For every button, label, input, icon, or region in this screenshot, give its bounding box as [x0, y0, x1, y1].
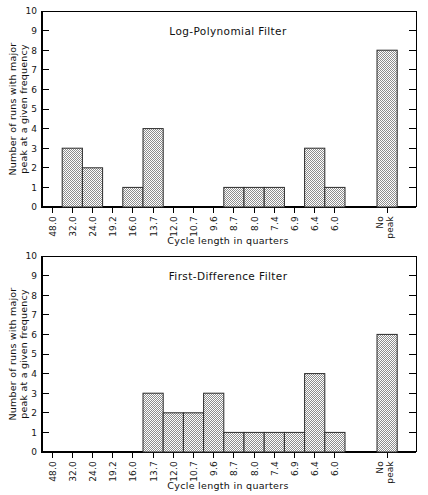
x-axis-ticks-top: [52, 207, 387, 213]
x-tick-label-bottom-14: 6.0: [330, 461, 340, 476]
y-tick-label-bottom-5: 5: [31, 349, 37, 359]
svg-text:6.4: 6.4: [310, 216, 320, 231]
y-tick-label-top-9: 9: [31, 26, 37, 36]
svg-text:12.0: 12.0: [169, 461, 179, 482]
chart-title-log-polynomial: Log-Polynomial Filter: [169, 25, 287, 37]
svg-text:48.0: 48.0: [48, 216, 58, 237]
svg-text:No: No: [375, 461, 385, 474]
bar-top-8.0: [244, 187, 264, 207]
x-axis-title-bottom: Cycle length in quarters: [167, 480, 288, 491]
y-axis-ticks-bottom: [42, 256, 416, 452]
y-axis-title-top: Number of runs with major peak at a give…: [7, 43, 29, 176]
y-tick-label-top-1: 1: [31, 183, 37, 193]
svg-text:9.6: 9.6: [209, 216, 219, 231]
svg-text:8.7: 8.7: [229, 461, 239, 476]
svg-text:9.6: 9.6: [209, 461, 219, 476]
x-tick-label-top-7: 10.7: [189, 216, 199, 237]
svg-text:6.4: 6.4: [310, 461, 320, 476]
x-tick-label-top-13: 6.4: [310, 216, 320, 231]
plot-frame-bottom: [42, 256, 416, 452]
x-tick-label-top-9: 8.7: [229, 216, 239, 231]
x-tick-label-top-4: 16.0: [128, 216, 138, 237]
x-tick-label-top-6: 12.0: [169, 216, 179, 237]
x-tick-label-bottom-10: 8.0: [250, 461, 260, 476]
bar-bottom-7.4: [264, 432, 284, 452]
y-tick-label-top-3: 3: [31, 144, 37, 154]
x-tick-label-bottom-11: 7.4: [270, 461, 280, 476]
y-tick-label-bottom-0: 0: [31, 447, 37, 457]
y-tick-label-top-10: 10: [26, 6, 38, 16]
y-tick-label-top-6: 6: [31, 85, 37, 95]
y-tick-label-bottom-8: 8: [31, 291, 37, 301]
svg-text:8.7: 8.7: [229, 216, 239, 231]
y-axis-title-bottom-line1: Number of runs with major: [7, 288, 18, 421]
svg-text:19.2: 19.2: [108, 216, 118, 237]
chart-svg-log-polynomial: 012345678910 48.032.024.019.216.013.712.…: [0, 0, 428, 250]
y-tick-label-bottom-6: 6: [31, 330, 37, 340]
svg-text:6.9: 6.9: [290, 461, 300, 476]
x-tick-label-top-2: 24.0: [88, 216, 98, 237]
y-tick-label-top-5: 5: [31, 104, 37, 114]
bar-bottom-6.4: [305, 374, 325, 452]
bar-bottom-13.7: [143, 393, 163, 452]
bar-top-7.4: [264, 187, 284, 207]
svg-text:16.0: 16.0: [128, 216, 138, 237]
y-tick-label-bottom-2: 2: [31, 408, 37, 418]
svg-text:8.0: 8.0: [250, 216, 260, 231]
svg-text:6.0: 6.0: [330, 461, 340, 476]
x-tick-label-top-12: 6.9: [290, 216, 300, 231]
chart-title-first-difference: First-Difference Filter: [169, 270, 288, 282]
svg-text:24.0: 24.0: [88, 461, 98, 482]
y-tick-label-bottom-3: 3: [31, 389, 37, 399]
x-tick-label-bottom-5: 13.7: [149, 461, 159, 482]
bar-bottom-6.9: [284, 432, 304, 452]
svg-text:32.0: 32.0: [68, 461, 78, 482]
svg-text:19.2: 19.2: [108, 461, 118, 482]
x-tick-label-top-1: 32.0: [68, 216, 78, 237]
y-tick-label-top-4: 4: [31, 124, 37, 134]
bar-top-32.0: [62, 148, 82, 207]
x-tick-label-bottom-12: 6.9: [290, 461, 300, 476]
y-axis-title-bottom-line2: peak at a given frequency: [18, 289, 29, 419]
x-tick-label-bottom-3: 19.2: [108, 461, 118, 482]
chart-svg-first-difference: 012345678910 48.032.024.019.216.013.712.…: [0, 245, 428, 495]
svg-text:6.0: 6.0: [330, 216, 340, 231]
svg-text:6.9: 6.9: [290, 216, 300, 231]
chart-panel-log-polynomial: 012345678910 48.032.024.019.216.013.712.…: [0, 0, 428, 250]
svg-text:8.0: 8.0: [250, 461, 260, 476]
y-tick-label-top-7: 7: [31, 65, 37, 75]
svg-text:32.0: 32.0: [68, 216, 78, 237]
bar-bottom-6.0: [325, 432, 345, 452]
x-tick-label-bottom-8: 9.6: [209, 461, 219, 476]
x-tick-label-bottom-1: 32.0: [68, 461, 78, 482]
svg-text:13.7: 13.7: [149, 461, 159, 482]
bar-top-No-peak: [377, 50, 397, 207]
x-tick-label-top-11: 7.4: [270, 216, 280, 231]
bar-top-13.7: [143, 129, 163, 207]
x-axis-ticks-bottom: [52, 452, 387, 458]
x-tick-label-bottom-7: 10.7: [189, 461, 199, 482]
bar-bottom-10.7: [183, 413, 203, 452]
svg-text:peak: peak: [385, 460, 395, 483]
x-tick-label-top-3: 19.2: [108, 216, 118, 237]
svg-text:peak: peak: [385, 215, 395, 238]
y-tick-label-bottom-1: 1: [31, 428, 37, 438]
bar-top-16.0: [123, 187, 143, 207]
svg-text:No: No: [375, 216, 385, 229]
x-tick-label-top-14: 6.0: [330, 216, 340, 231]
y-tick-label-bottom-9: 9: [31, 271, 37, 281]
svg-text:16.0: 16.0: [128, 461, 138, 482]
y-tick-label-bottom-4: 4: [31, 369, 37, 379]
x-tick-label-bottom-0: 48.0: [48, 461, 58, 482]
x-tick-label-top-0: 48.0: [48, 216, 58, 237]
y-tick-label-bottom-10: 10: [26, 251, 38, 261]
y-tick-label-bottom-7: 7: [31, 310, 37, 320]
bar-bottom-No-peak: [377, 334, 397, 452]
bar-top-8.7: [224, 187, 244, 207]
x-tick-label-bottom-4: 16.0: [128, 461, 138, 482]
bar-top-24.0: [82, 168, 102, 207]
bar-bottom-12.0: [163, 413, 183, 452]
x-tick-label-top-nopeak: Nopeak: [375, 215, 395, 238]
bar-top-6.0: [325, 187, 345, 207]
svg-text:10.7: 10.7: [189, 461, 199, 482]
